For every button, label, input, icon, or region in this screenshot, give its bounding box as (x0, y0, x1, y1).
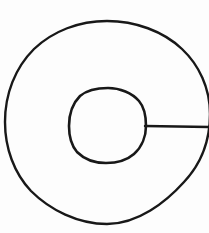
concentric-circles-diagram (0, 0, 209, 233)
radial-line (145, 126, 209, 127)
diagram-background (0, 0, 209, 233)
figure-canvas: Concentric circles with radial line A la… (0, 0, 209, 233)
